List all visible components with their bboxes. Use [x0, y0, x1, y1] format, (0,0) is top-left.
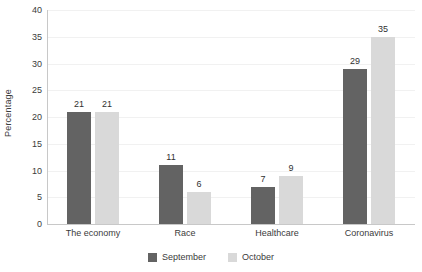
- bar-september-race[interactable]: 11: [159, 165, 183, 224]
- y-axis-line: [47, 10, 48, 225]
- legend-item-september[interactable]: September: [148, 253, 206, 262]
- bar-value-label: 7: [260, 175, 265, 184]
- bar-value-label: 21: [102, 100, 112, 109]
- bar-value-label: 35: [378, 25, 388, 34]
- x-axis-label-race: Race: [174, 229, 195, 238]
- bar-october-race[interactable]: 6: [187, 192, 211, 224]
- legend-swatch-icon: [228, 253, 237, 262]
- bar-september-the-economy[interactable]: 21: [67, 112, 91, 224]
- y-axis-tick-label: 5: [37, 193, 42, 202]
- y-axis-title: Percentage: [0, 0, 16, 225]
- x-axis-label-the-economy: The economy: [66, 229, 121, 238]
- bar-value-label: 21: [74, 100, 84, 109]
- bar-value-label: 9: [288, 164, 293, 173]
- gridline: 35: [47, 37, 415, 38]
- x-axis-label-healthcare: Healthcare: [255, 229, 299, 238]
- x-axis-line: [47, 224, 415, 225]
- bar-september-healthcare[interactable]: 7: [251, 187, 275, 224]
- bar-value-label: 6: [196, 180, 201, 189]
- bar-value-label: 29: [350, 57, 360, 66]
- y-axis-tick-label: 10: [32, 166, 42, 175]
- bar-chart: Percentage 0510152025303540 212111679293…: [0, 0, 422, 272]
- gridline: 40: [47, 10, 415, 11]
- y-axis-tick-label: 20: [32, 113, 42, 122]
- legend-swatch-icon: [148, 253, 157, 262]
- y-axis-tick-label: 35: [32, 32, 42, 41]
- legend-label: September: [162, 253, 206, 262]
- y-axis-tick-label: 30: [32, 59, 42, 68]
- plot-area: 0510152025303540 2121116792935: [47, 10, 415, 225]
- legend-label: October: [242, 253, 274, 262]
- chart-legend: SeptemberOctober: [0, 253, 422, 262]
- bar-october-the-economy[interactable]: 21: [95, 112, 119, 224]
- legend-item-october[interactable]: October: [228, 253, 274, 262]
- y-axis-tick-label: 25: [32, 86, 42, 95]
- x-axis-label-coronavirus: Coronavirus: [345, 229, 394, 238]
- y-axis-tick-label: 15: [32, 139, 42, 148]
- bar-october-coronavirus[interactable]: 35: [371, 37, 395, 224]
- bar-september-coronavirus[interactable]: 29: [343, 69, 367, 224]
- y-axis-tick-label: 40: [32, 6, 42, 15]
- y-axis-tick-label: 0: [37, 220, 42, 229]
- bar-value-label: 11: [166, 153, 175, 162]
- y-axis-title-label: Percentage: [3, 88, 13, 136]
- bar-october-healthcare[interactable]: 9: [279, 176, 303, 224]
